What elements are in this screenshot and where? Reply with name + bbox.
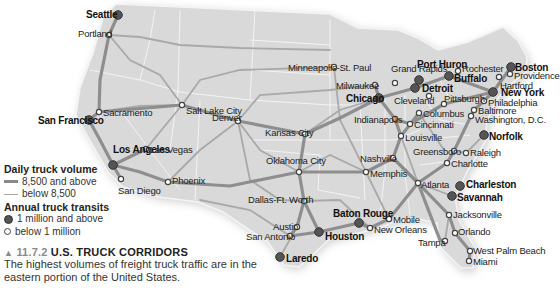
legend-volume-high: 8,500 and above <box>4 176 109 189</box>
large-city-dot-icon <box>109 161 118 170</box>
city-label-nashville: Nashville <box>360 154 397 164</box>
small-city-dot-icon <box>363 169 368 174</box>
figure-caption: ▲ 11.7.2 U.S. TRUCK CORRIDORS The highes… <box>4 246 294 284</box>
city-label-kansas-city: Kansas City <box>265 128 314 138</box>
small-city-dot-icon <box>367 225 372 230</box>
thick-line-swatch-icon <box>4 180 18 183</box>
small-city-dot-icon <box>446 212 451 217</box>
city-label-port-huron: Port Huron <box>417 60 467 70</box>
legend-volume-low: below 8,500 <box>4 188 109 201</box>
city-label-charlotte: Charlotte <box>451 159 488 169</box>
thin-line-swatch-icon <box>4 194 18 195</box>
legend-transits-high: 1 million and above <box>4 213 109 226</box>
small-city-dot-icon <box>96 109 101 114</box>
caption-heading: U.S. TRUCK CORRIDORS <box>51 246 188 258</box>
city-label-oklahoma-city: Oklahoma City <box>266 156 326 166</box>
small-city-dot-icon <box>463 150 468 155</box>
city-label-las-vegas: Las Vegas <box>150 145 193 155</box>
large-dot-icon <box>4 215 13 224</box>
small-city-dot-icon <box>452 230 457 235</box>
small-city-dot-icon <box>496 74 501 79</box>
city-label-minneapolis-st-paul: Minneapolis-St. Paul <box>288 63 371 73</box>
city-label-raleigh: Raleigh <box>470 148 501 158</box>
legend-transits-title: Annual truck transits <box>4 201 109 214</box>
city-label-phoenix: Phoenix <box>172 176 205 186</box>
city-label-cleveland: Cleveland <box>394 96 434 106</box>
city-label-houston: Houston <box>325 232 364 242</box>
legend-volume-title: Daily truck volume <box>4 163 109 176</box>
small-city-dot-icon <box>467 248 472 253</box>
legend-transits-low-label: below 1 million <box>15 226 81 239</box>
small-city-dot-icon <box>471 107 476 112</box>
small-dot-icon <box>4 228 11 235</box>
large-city-dot-icon <box>480 131 489 140</box>
city-label-seattle: Seattle <box>86 10 117 20</box>
small-city-dot-icon <box>392 80 397 85</box>
city-label-rochester: Rochester <box>462 64 504 74</box>
caption-title: ▲ 11.7.2 U.S. TRUCK CORRIDORS <box>4 246 294 258</box>
small-city-dot-icon <box>398 133 403 138</box>
city-label-portland: Portland <box>78 29 112 39</box>
small-city-dot-icon <box>507 71 512 76</box>
city-label-sacramento: Sacramento <box>103 108 152 118</box>
city-label-memphis: Memphis <box>370 169 407 179</box>
city-label-new-orleans: New Orleans <box>374 225 427 235</box>
city-label-chicago: Chicago <box>346 94 384 104</box>
city-label-atlanta: Atlanta <box>421 180 449 190</box>
small-city-dot-icon <box>444 160 449 165</box>
large-city-dot-icon <box>489 88 498 97</box>
city-label-savannah: Savannah <box>457 193 503 203</box>
city-label-san-diego: San Diego <box>118 186 161 196</box>
legend-transits-low: below 1 million <box>4 226 109 239</box>
large-city-dot-icon <box>448 192 457 201</box>
small-city-dot-icon <box>468 113 473 118</box>
map-legend: Daily truck volume 8,500 and above below… <box>4 163 109 238</box>
small-city-dot-icon <box>416 110 421 115</box>
small-city-dot-icon <box>296 169 301 174</box>
small-city-dot-icon <box>165 179 170 184</box>
city-label-charleston: Charleston <box>466 180 516 190</box>
city-label-columbus: Columbus <box>423 109 464 119</box>
city-label-norfolk: Norfolk <box>489 132 523 142</box>
city-label-jacksonville: Jacksonville <box>453 210 502 220</box>
city-label-san-francisco: San Francisco <box>38 116 104 126</box>
large-city-dot-icon <box>315 228 324 237</box>
figure-number: 11.7.2 <box>16 246 47 258</box>
city-label-west-palm-beach: West Palm Beach <box>473 246 545 256</box>
small-city-dot-icon <box>415 180 420 185</box>
city-label-cincinnati: Cincinnati <box>414 120 454 130</box>
city-label-san-antonio: San Antonio <box>246 232 295 242</box>
city-label-pittsburgh: Pittsburgh <box>444 94 485 104</box>
small-city-dot-icon <box>179 102 184 107</box>
legend-transits-high-label: 1 million and above <box>17 213 103 226</box>
triangle-marker-icon: ▲ <box>4 248 13 258</box>
legend-volume-high-label: 8,500 and above <box>22 176 97 189</box>
city-label-dallas-ft-worth: Dallas-Ft. Worth <box>248 195 313 205</box>
city-label-greensboro: Greensboro <box>413 147 461 157</box>
large-city-dot-icon <box>355 219 364 228</box>
city-label-denver: Denver <box>212 113 241 123</box>
large-city-dot-icon <box>456 182 465 191</box>
city-label-baton-rouge: Baton Rouge <box>333 209 393 219</box>
city-label-buffalo: Buffalo <box>454 74 487 84</box>
city-label-louisville: Louisville <box>405 133 442 143</box>
city-label-orlando: Orlando <box>458 227 490 237</box>
city-label-milwaukee: Milwaukee <box>336 81 379 91</box>
legend-volume-low-label: below 8,500 <box>22 188 76 201</box>
city-label-miami: Miami <box>473 257 497 267</box>
large-city-dot-icon <box>411 84 420 93</box>
city-label-washington-d-c: Washington, D.C. <box>475 115 546 125</box>
city-label-tampa: Tampa <box>418 238 446 248</box>
city-label-indianapolis: Indianapolis <box>354 115 402 125</box>
caption-text: The highest volumes of freight truck tra… <box>4 258 294 284</box>
small-city-dot-icon <box>466 258 471 263</box>
small-city-dot-icon <box>118 176 123 181</box>
small-city-dot-icon <box>407 121 412 126</box>
